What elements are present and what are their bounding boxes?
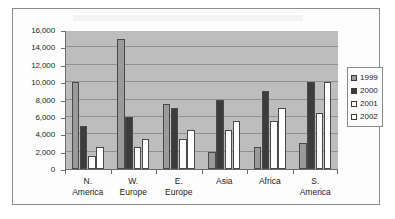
x-axis-category-label: S.America — [293, 176, 339, 198]
x-axis-category-line: Europe — [156, 187, 202, 198]
x-axis-category-label: E.Europe — [156, 176, 202, 198]
bar-2001-eeurope — [179, 139, 187, 169]
bar-2000-africa — [262, 91, 270, 169]
legend-label: 2000 — [360, 87, 378, 95]
x-axis-tick-mark — [111, 170, 112, 174]
y-axis-tick-label: 16,000 — [13, 27, 55, 35]
x-axis-category-line: S. — [293, 176, 339, 187]
bar-2000-asia — [216, 100, 224, 170]
legend-swatch-icon — [351, 88, 357, 94]
bar-group — [248, 31, 294, 169]
x-axis-tick-mark — [293, 170, 294, 174]
x-axis: N.AmericaW.EuropeE.EuropeAsiaAfricaS.Ame… — [65, 176, 338, 208]
legend-swatch-icon — [351, 75, 357, 81]
bar-1999-namerica — [72, 82, 80, 169]
x-axis-category-line: E. — [156, 176, 202, 187]
y-axis-tick-label: 2,000 — [13, 149, 55, 157]
legend-item-2000[interactable]: 2000 — [351, 84, 379, 97]
x-axis-category-line: Africa — [247, 176, 293, 187]
x-axis-category-label: W.Europe — [111, 176, 157, 198]
plot-area — [65, 31, 338, 170]
bar-2001-weurope — [134, 147, 142, 169]
x-axis-category-line: Asia — [202, 176, 248, 187]
bar-2002-namerica — [96, 147, 104, 169]
chart-frame: 02,0004,0006,0008,00010,00012,00014,0001… — [12, 8, 380, 205]
bar-2002-africa — [278, 108, 286, 169]
bar-1999-weurope — [117, 39, 125, 169]
legend-label: 2001 — [360, 100, 378, 108]
legend-label: 1999 — [360, 74, 378, 82]
x-axis-category-line: Europe — [111, 187, 157, 198]
bar-2001-africa — [270, 121, 278, 169]
y-axis-tick-label: 8,000 — [13, 97, 55, 105]
bar-2001-asia — [225, 130, 233, 169]
x-axis-ticks — [65, 170, 338, 174]
bar-2001-namerica — [88, 156, 96, 169]
legend-label: 2002 — [360, 113, 378, 121]
bar-2000-namerica — [80, 126, 88, 169]
x-axis-tick-mark — [156, 170, 157, 174]
bar-2001-samerica — [316, 113, 324, 169]
x-axis-tick-mark — [202, 170, 203, 174]
y-axis-tick-label: 4,000 — [13, 131, 55, 139]
y-axis-tick-label: 12,000 — [13, 62, 55, 70]
y-axis-tick-label: 0 — [13, 166, 55, 174]
legend-item-2002[interactable]: 2002 — [351, 110, 379, 123]
bar-2000-samerica — [307, 82, 315, 169]
bar-1999-asia — [208, 152, 216, 169]
scan-artifact — [73, 15, 303, 21]
bar-1999-africa — [254, 147, 262, 169]
bar-2000-eeurope — [171, 108, 179, 169]
y-axis-tick-label: 6,000 — [13, 114, 55, 122]
bar-group — [112, 31, 158, 169]
x-axis-category-label: Africa — [247, 176, 293, 187]
bar-group — [294, 31, 339, 169]
legend: 1999200020012002 — [347, 67, 383, 127]
y-axis-tick-label: 10,000 — [13, 79, 55, 87]
x-axis-tick-mark — [65, 170, 66, 174]
x-axis-category-label: N.America — [65, 176, 111, 198]
bar-1999-samerica — [299, 143, 307, 169]
legend-swatch-icon — [351, 114, 357, 120]
legend-item-1999[interactable]: 1999 — [351, 71, 379, 84]
bar-group — [203, 31, 249, 169]
legend-swatch-icon — [351, 101, 357, 107]
x-axis-tick-mark — [337, 170, 338, 174]
bar-group — [157, 31, 203, 169]
legend-item-2001[interactable]: 2001 — [351, 97, 379, 110]
x-axis-category-line: W. — [111, 176, 157, 187]
bar-group — [66, 31, 112, 169]
x-axis-category-line: America — [65, 187, 111, 198]
bar-2002-weurope — [142, 139, 150, 169]
x-axis-tick-mark — [247, 170, 248, 174]
y-axis-tick-label: 14,000 — [13, 44, 55, 52]
x-axis-category-line: N. — [65, 176, 111, 187]
bar-2002-samerica — [324, 82, 332, 169]
bar-2002-asia — [233, 121, 241, 169]
y-axis: 02,0004,0006,0008,00010,00012,00014,0001… — [13, 23, 61, 178]
x-axis-category-label: Asia — [202, 176, 248, 187]
bar-2000-weurope — [125, 117, 133, 169]
bar-2002-eeurope — [187, 130, 195, 169]
bar-1999-eeurope — [163, 104, 171, 169]
x-axis-category-line: America — [293, 187, 339, 198]
